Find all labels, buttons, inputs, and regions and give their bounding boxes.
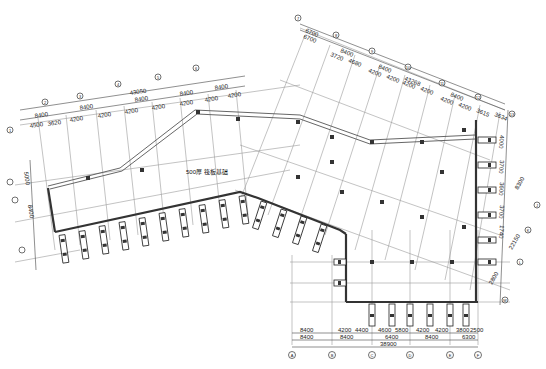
pile-group-right [334, 137, 496, 286]
svg-text:8400: 8400 [300, 334, 314, 340]
left-wing-grid [15, 85, 300, 262]
svg-text:4200: 4200 [69, 115, 84, 123]
svg-text:4200: 4200 [179, 99, 194, 107]
svg-text:J: J [536, 203, 538, 208]
axis-bubbles-right: 7 8 9 10 11 12 13 [295, 15, 515, 117]
svg-text:4200: 4200 [227, 91, 242, 99]
svg-text:8400: 8400 [300, 327, 314, 333]
svg-text:4400: 4400 [355, 327, 369, 333]
axis-bubbles-left: 1 2 3 4 5 6 [7, 65, 199, 253]
svg-text:M: M [503, 298, 506, 303]
svg-text:22150: 22150 [508, 232, 522, 250]
svg-text:4200: 4200 [204, 95, 219, 103]
svg-text:4200: 4200 [416, 327, 430, 333]
svg-text:A: A [291, 353, 294, 358]
foundation-plan-drawing: 43050 8400 8400 8400 8400 8400 4500 3620… [0, 0, 546, 369]
svg-text:C: C [371, 353, 374, 358]
svg-text:8400: 8400 [179, 89, 194, 97]
svg-text:4200: 4200 [458, 101, 473, 112]
pile-group-left [59, 196, 327, 264]
svg-text:8300: 8300 [514, 175, 526, 190]
svg-text:B: B [331, 353, 334, 358]
bottom-dimensions: 8400 4200 4400 4600 5800 4200 4200 3800 … [292, 327, 484, 347]
svg-text:6300: 6300 [462, 334, 476, 340]
svg-text:6400: 6400 [385, 334, 399, 340]
svg-text:8400: 8400 [425, 334, 439, 340]
svg-text:3800: 3800 [456, 327, 470, 333]
svg-text:4200: 4200 [435, 327, 449, 333]
svg-text:1740: 1740 [498, 225, 505, 239]
svg-text:3620: 3620 [47, 119, 62, 127]
svg-text:D: D [409, 353, 412, 358]
svg-text:K: K [527, 228, 530, 233]
svg-text:4500: 4500 [29, 121, 44, 129]
svg-text:8400: 8400 [34, 111, 49, 119]
svg-text:4200: 4200 [386, 73, 401, 84]
svg-text:3700: 3700 [498, 160, 505, 174]
svg-text:4200: 4200 [97, 111, 112, 119]
svg-text:5800: 5800 [395, 327, 409, 333]
svg-text:8400: 8400 [214, 83, 229, 91]
svg-text:8400: 8400 [134, 95, 149, 103]
svg-text:10: 10 [406, 65, 411, 70]
svg-text:8400: 8400 [79, 103, 94, 111]
svg-text:12: 12 [476, 95, 481, 100]
svg-text:4680: 4680 [348, 57, 363, 68]
axis-bubbles-side: J K L M [502, 202, 540, 303]
svg-text:E: E [449, 353, 452, 358]
svg-text:2500: 2500 [470, 327, 484, 333]
svg-text:8400: 8400 [27, 204, 35, 219]
bottom-overall-dim: 38900 [380, 341, 397, 347]
svg-text:3600: 3600 [498, 182, 505, 196]
right-wing-grid [235, 28, 510, 290]
svg-text:3700: 3700 [498, 205, 505, 219]
svg-text:3634: 3634 [494, 111, 509, 122]
svg-text:4200: 4200 [338, 327, 352, 333]
slab-label: 500厚 筏板基础 [186, 168, 228, 176]
svg-text:4200: 4200 [124, 107, 139, 115]
svg-text:4200: 4200 [151, 103, 166, 111]
svg-text:13: 13 [510, 112, 515, 117]
svg-text:4600: 4600 [378, 327, 392, 333]
svg-text:4000: 4000 [498, 135, 505, 149]
svg-text:8400: 8400 [340, 334, 354, 340]
pile-group-bottom [369, 304, 469, 326]
axis-bubbles-bottom: A B C D E F [289, 352, 482, 359]
